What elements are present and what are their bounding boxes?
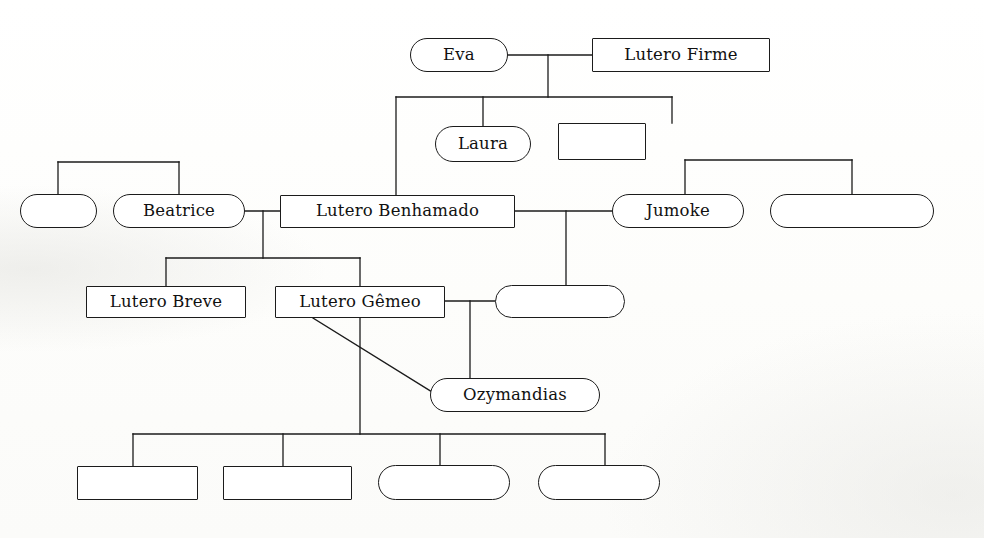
- person-node-unnamed-b[interactable]: [20, 194, 97, 228]
- person-label-breve: Lutero Breve: [104, 294, 228, 311]
- person-node-unnamed-d[interactable]: [495, 285, 625, 318]
- person-node-ozymandias[interactable]: Ozymandias: [430, 378, 600, 412]
- person-node-unnamed-h[interactable]: [538, 465, 660, 500]
- person-label-eva: Eva: [437, 47, 481, 64]
- person-label-beatrice: Beatrice: [137, 203, 221, 220]
- person-node-unnamed-g[interactable]: [378, 465, 510, 500]
- person-node-beatrice[interactable]: Beatrice: [113, 194, 245, 228]
- person-node-unnamed-e[interactable]: [77, 466, 198, 500]
- person-label-jumoke: Jumoke: [640, 203, 716, 220]
- connector-layer: [0, 0, 984, 538]
- person-node-benhamado[interactable]: Lutero Benhamado: [280, 195, 515, 228]
- person-node-eva[interactable]: Eva: [410, 38, 508, 72]
- person-node-laura[interactable]: Laura: [435, 126, 531, 162]
- family-tree-canvas: EvaLutero FirmeLauraBeatriceLutero Benha…: [0, 0, 984, 538]
- person-label-benhamado: Lutero Benhamado: [310, 203, 485, 220]
- person-node-unnamed-c[interactable]: [770, 194, 934, 228]
- person-label-gemeo: Lutero Gêmeo: [293, 294, 427, 311]
- person-label-firme: Lutero Firme: [618, 47, 743, 64]
- person-label-ozymandias: Ozymandias: [457, 387, 573, 404]
- person-node-unnamed-a[interactable]: [558, 123, 646, 160]
- person-label-laura: Laura: [452, 136, 514, 153]
- person-node-gemeo[interactable]: Lutero Gêmeo: [275, 286, 445, 318]
- person-node-unnamed-f[interactable]: [223, 466, 352, 500]
- person-node-jumoke[interactable]: Jumoke: [612, 194, 744, 228]
- person-node-firme[interactable]: Lutero Firme: [592, 38, 770, 72]
- edge-gemeo-ozy-diagonal: [313, 318, 437, 395]
- person-node-breve[interactable]: Lutero Breve: [86, 286, 246, 318]
